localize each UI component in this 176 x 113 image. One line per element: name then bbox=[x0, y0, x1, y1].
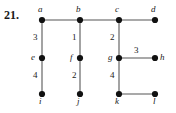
graph-vertex bbox=[116, 17, 122, 23]
graph-vertex bbox=[152, 55, 158, 61]
vertex-label-i: i bbox=[39, 97, 42, 106]
vertex-label-f: f bbox=[70, 53, 73, 62]
graph-vertex bbox=[39, 17, 45, 23]
edge-weight-label: 4 bbox=[33, 71, 38, 80]
edge-weight-label: 4 bbox=[110, 71, 115, 80]
edge-weight-label: 2 bbox=[110, 33, 115, 42]
edge-weight-label: 1 bbox=[72, 33, 77, 42]
vertex-label-e: e bbox=[31, 53, 35, 62]
vertices-layer bbox=[39, 17, 158, 97]
vertex-label-h: h bbox=[160, 53, 165, 62]
vertex-label-k: k bbox=[115, 97, 119, 106]
graph-vertex bbox=[77, 17, 83, 23]
edge-weight-label: 2 bbox=[72, 71, 77, 80]
graph-vertex bbox=[116, 55, 122, 61]
vertex-label-d: d bbox=[151, 5, 156, 14]
vertex-label-j: j bbox=[77, 97, 80, 106]
vertex-label-b: b bbox=[76, 5, 81, 14]
graph-vertex bbox=[77, 55, 83, 61]
vertex-label-l: l bbox=[153, 97, 156, 106]
edge-weight-label: 3 bbox=[134, 46, 139, 55]
edge-weight-label: 3 bbox=[33, 33, 38, 42]
graph-canvas bbox=[0, 0, 176, 113]
edges-layer bbox=[42, 20, 155, 94]
vertex-label-g: g bbox=[108, 53, 113, 62]
graph-vertex bbox=[39, 55, 45, 61]
vertex-label-a: a bbox=[38, 5, 43, 14]
vertex-label-c: c bbox=[115, 5, 119, 14]
graph-vertex bbox=[152, 17, 158, 23]
graph-figure: 21. abcdefghijkl 3123424 bbox=[0, 0, 176, 113]
